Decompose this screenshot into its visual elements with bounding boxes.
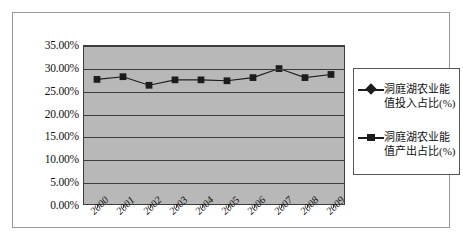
data-point-marker <box>146 82 153 89</box>
legend-label-0-line1: 洞庭湖农业能 <box>384 83 450 95</box>
y-axis-tick-label: 30.00% <box>17 62 79 74</box>
data-point-marker <box>250 74 257 81</box>
data-point-marker <box>94 76 101 83</box>
y-axis-tick-label: 10.00% <box>17 153 79 165</box>
gridline <box>84 92 344 93</box>
y-axis-labels: 0.00%5.00%10.00%15.00%20.00%25.00%30.00%… <box>13 45 79 205</box>
x-axis-labels: 2000200120022003200420052006200720082009 <box>83 207 345 241</box>
legend-label-1-line2: 值产出占比(%) <box>384 144 456 158</box>
y-axis-tick-label: 0.00% <box>17 199 79 211</box>
chart-frame: 0.00%5.00%10.00%15.00%20.00%25.00%30.00%… <box>12 12 450 228</box>
gridline <box>84 183 344 184</box>
plot-area <box>83 45 345 205</box>
gridline <box>84 137 344 138</box>
y-axis-tick-label: 20.00% <box>17 108 79 120</box>
legend-label-1-line1: 洞庭湖农业能 <box>384 131 450 143</box>
diamond-marker-icon <box>358 83 384 97</box>
data-point-marker <box>172 76 179 83</box>
gridline <box>84 46 344 47</box>
square-marker-icon <box>358 131 384 145</box>
series-line-1 <box>97 69 331 86</box>
data-point-marker <box>120 73 127 80</box>
y-axis-tick-label: 25.00% <box>17 85 79 97</box>
legend-label-0-line2: 值投入占比(%) <box>384 96 456 110</box>
chart-legend: 洞庭湖农业能 值投入占比(%) 洞庭湖农业能 值产出占比(%) <box>353 68 460 175</box>
legend-item-0[interactable]: 洞庭湖农业能 值投入占比(%) <box>358 82 456 110</box>
legend-label-0: 洞庭湖农业能 值投入占比(%) <box>384 82 456 110</box>
legend-label-1: 洞庭湖农业能 值产出占比(%) <box>384 130 456 158</box>
y-axis-tick-label: 15.00% <box>17 130 79 142</box>
legend-item-1[interactable]: 洞庭湖农业能 值产出占比(%) <box>358 130 456 158</box>
gridline <box>84 69 344 70</box>
data-point-marker <box>198 76 205 83</box>
gridline <box>84 160 344 161</box>
data-point-marker <box>302 74 309 81</box>
gridline <box>84 115 344 116</box>
y-axis-tick-label: 5.00% <box>17 176 79 188</box>
data-point-marker <box>328 71 335 78</box>
data-point-marker <box>224 77 231 84</box>
y-axis-tick-label: 35.00% <box>17 39 79 51</box>
